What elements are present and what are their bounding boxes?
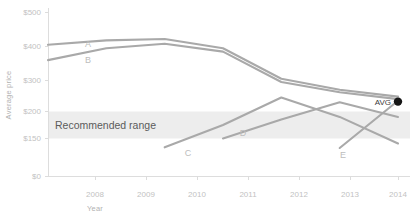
y-tick-label-300: $300	[23, 76, 41, 85]
chart-container: $500 $400 $300 $200 $150 $0 2008 2009 20…	[0, 0, 410, 221]
line-chart: $500 $400 $300 $200 $150 $0 2008 2009 20…	[0, 0, 410, 221]
x-tick-label-2013: 2013	[341, 190, 359, 199]
recommended-range-label: Recommended range	[55, 119, 156, 131]
series-line-a	[48, 39, 398, 97]
y-tick-label-0: $0	[32, 172, 41, 181]
x-tick-label-2012: 2012	[290, 190, 308, 199]
y-axis-title: Average price	[4, 71, 13, 120]
y-tick-label-400: $400	[23, 42, 41, 51]
x-tick-label-2008: 2008	[86, 190, 104, 199]
x-axis-title: Year	[87, 204, 103, 213]
avg-marker-dot	[394, 97, 402, 105]
series-label-b: B	[85, 55, 91, 65]
series-label-a: A	[85, 39, 91, 49]
x-tick-label-2011: 2011	[239, 190, 257, 199]
series-label-e: E	[340, 150, 346, 160]
x-tick-label-2014: 2014	[389, 190, 407, 199]
y-tick-label-200: $200	[23, 107, 41, 116]
x-tick-label-2009: 2009	[137, 190, 155, 199]
avg-marker-label: AVG	[375, 98, 391, 107]
y-tick-label-150: $150	[23, 134, 41, 143]
y-tick-marks	[45, 13, 48, 177]
x-tick-label-2010: 2010	[188, 190, 206, 199]
series-label-d: D	[240, 128, 247, 138]
series-label-c: C	[185, 148, 192, 158]
y-tick-label-500: $500	[23, 8, 41, 17]
